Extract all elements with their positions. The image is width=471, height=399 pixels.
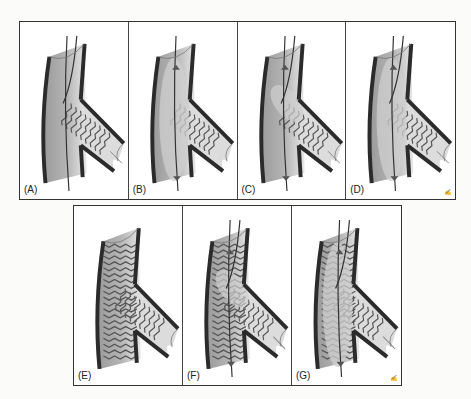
vessel-bifurcation-illustration [129,22,237,199]
vessel-bifurcation-illustration [74,206,182,385]
figure-panel-d: (D) ✍ [346,22,455,199]
artist-signature: ✍ [444,188,451,195]
vessel-bifurcation-illustration [346,22,455,199]
panel-label: (E) [78,370,91,381]
panel-label: (G) [296,370,310,381]
main-vessel-right-wall-lower [408,145,410,177]
figure-panel-e: (E) [74,206,183,385]
main-vessel-right-wall-lower [81,145,83,177]
vessel-bifurcation-illustration [20,22,128,199]
vessel-bifurcation-illustration [238,22,346,199]
vessel-bifurcation-illustration [292,206,401,385]
panel-label: (F) [187,370,200,381]
figure-panel-f: (F) [183,206,292,385]
panel-label: (A) [24,184,37,195]
artist-signature: ✍ [390,374,397,381]
figure-panel-b: (B) [129,22,238,199]
figure-panel-g: (G) ✍ [292,206,401,385]
figure-panel-c: (C) [238,22,347,199]
panel-label: (B) [133,184,146,195]
main-vessel-right-wall-lower [244,331,246,363]
figure-row-top: (A) (B) (C) (D) ✍ [19,21,456,200]
main-vessel-right-wall-lower [353,331,355,363]
main-vessel-right-wall-lower [298,145,300,177]
figure-row-bottom: (E) (F) (G) ✍ [73,205,402,386]
panel-label: (C) [242,184,256,195]
balloon-marker-icon [282,176,290,181]
balloon-marker-icon [227,362,235,367]
figure-panel-a: (A) [20,22,129,199]
main-vessel-right-wall-lower [189,145,191,177]
panel-label: (D) [350,184,364,195]
vessel-bifurcation-illustration [183,206,291,385]
main-vessel-right-wall-lower [135,331,137,363]
